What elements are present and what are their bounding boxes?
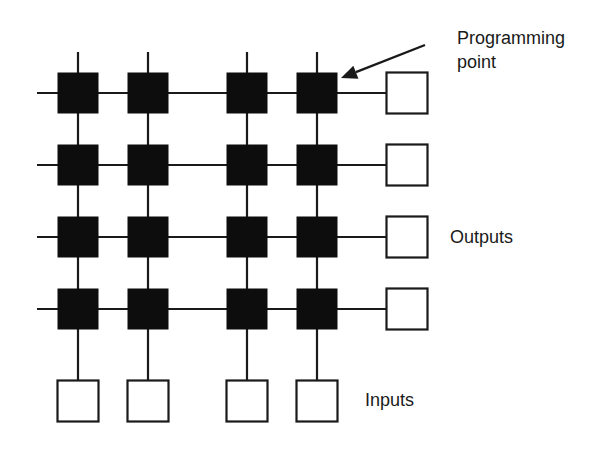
input-box-4 [297, 381, 338, 422]
programming-point-r2-c2 [128, 145, 169, 186]
programming-point-r4-c4 [297, 289, 338, 330]
output-box-3 [387, 217, 428, 258]
output-box-4 [387, 289, 428, 330]
programming-point-r1-c2 [128, 73, 169, 114]
output-box-1 [387, 73, 428, 114]
programming-point-r2-c4 [297, 145, 338, 186]
programming-point-r1-c1 [58, 73, 99, 114]
programming-point-r4-c1 [58, 289, 99, 330]
input-box-2 [128, 381, 169, 422]
programming-point-r3-c1 [58, 217, 99, 258]
programming-point-r2-c3 [227, 145, 268, 186]
programming-point-r3-c2 [128, 217, 169, 258]
interconnect-diagram [0, 0, 608, 453]
outputs-label: Outputs [450, 226, 513, 248]
programming-point-r3-c4 [297, 217, 338, 258]
programming-point-label-line1: Programming [457, 27, 565, 49]
input-box-3 [227, 381, 268, 422]
programming-point-r4-c2 [128, 289, 169, 330]
inputs-label: Inputs [365, 389, 414, 411]
arrow-shaft [356, 45, 425, 72]
arrow-head-icon [341, 66, 358, 79]
programming-point-r4-c3 [227, 289, 268, 330]
programming-point-r1-c4 [297, 73, 338, 114]
input-box-1 [58, 381, 99, 422]
output-box-2 [387, 145, 428, 186]
programming-point-r2-c1 [58, 145, 99, 186]
programming-point-r3-c3 [227, 217, 268, 258]
programming-point-label-line2: point [457, 51, 496, 73]
programming-point-r1-c3 [227, 73, 268, 114]
